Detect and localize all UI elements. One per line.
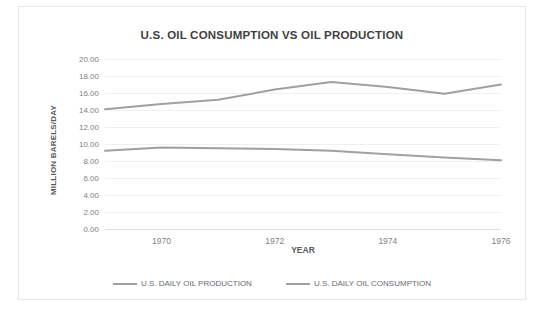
y-axis-tick-label: 18.00 [79,72,99,81]
x-axis-title: YEAR [105,245,501,255]
y-axis-tick-label: 16.00 [79,89,99,98]
legend-label: U.S. DAILY OIL CONSUMPTION [314,279,431,288]
legend-line-icon [286,283,310,285]
y-axis-tick-label: 14.00 [79,106,99,115]
y-axis-tick-label: 12.00 [79,123,99,132]
y-axis-tick-label: 2.00 [83,208,99,217]
legend-line-icon [113,283,137,285]
chart-title: U.S. OIL CONSUMPTION VS OIL PRODUCTION [19,29,525,41]
y-axis-title: MILLION BARELS/DAY [49,65,63,235]
legend-label: U.S. DAILY OIL PRODUCTION [141,279,252,288]
series-lines [105,59,501,229]
y-axis-tick-label: 0.00 [83,225,99,234]
y-axis-tick-label: 6.00 [83,174,99,183]
legend-item[interactable]: U.S. DAILY OIL CONSUMPTION [286,279,431,288]
chart-container: U.S. OIL CONSUMPTION VS OIL PRODUCTION M… [18,6,526,300]
y-axis-tick-label: 20.00 [79,55,99,64]
plot-area: 20.0018.0016.0014.0012.0010.008.006.004.… [105,59,501,229]
gridline [105,229,501,230]
y-axis-tick-label: 8.00 [83,157,99,166]
chart-legend: U.S. DAILY OIL PRODUCTIONU.S. DAILY OIL … [19,279,525,288]
y-axis-tick-label: 4.00 [83,191,99,200]
series-line [105,82,501,109]
legend-item[interactable]: U.S. DAILY OIL PRODUCTION [113,279,252,288]
y-axis-tick-label: 10.00 [79,140,99,149]
series-line [105,147,501,160]
